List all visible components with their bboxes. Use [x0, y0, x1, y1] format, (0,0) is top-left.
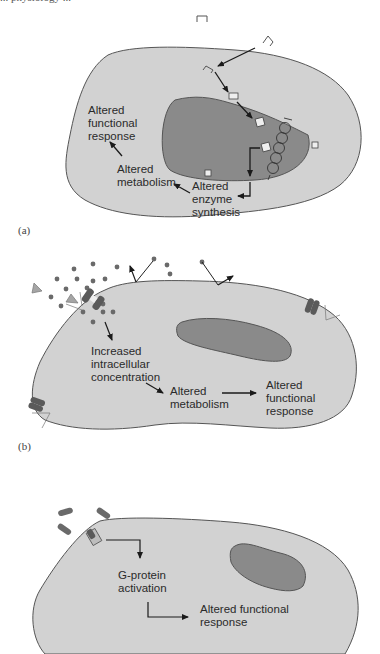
- panel-c: [33, 507, 358, 654]
- receptor-icon: [205, 170, 211, 176]
- hormone-molecule-icon: [263, 36, 273, 46]
- label-increased-intracellular-concentration: Increased intracellular concentration: [91, 345, 160, 384]
- label-altered-metabolism-a: Altered metabolism: [117, 163, 176, 189]
- figure-canvas: [0, 0, 380, 654]
- receptor-icon: [312, 142, 318, 148]
- receptor-complex-icon: [261, 142, 271, 152]
- panel-label-a: (a): [18, 224, 30, 236]
- hormone-molecule-icon: [197, 16, 207, 22]
- ligand-triangle-icon: [66, 294, 78, 303]
- label-g-protein-activation: G-protein activation: [118, 569, 167, 595]
- panel-label-b: (b): [18, 440, 31, 452]
- receptor-icon: [229, 93, 238, 99]
- cell-c-cytoplasm: [33, 518, 358, 654]
- ligand-rod-icon: [57, 507, 73, 517]
- ligand-rod-icon: [96, 507, 112, 521]
- ligand-triangle-icon: [32, 283, 42, 293]
- label-altered-functional-response-b: Altered functional response: [266, 379, 315, 418]
- label-altered-functional-response-a: Altered functional response: [88, 104, 137, 143]
- running-header: ... physiology ...: [0, 0, 71, 3]
- label-altered-functional-response-c: Altered functional response: [200, 603, 289, 629]
- ligand-rod-icon: [57, 523, 73, 537]
- label-altered-metabolism-b: Altered metabolism: [170, 385, 229, 411]
- label-altered-enzyme-synthesis: Altered enzyme synthesis: [192, 180, 240, 219]
- receptor-complex-icon: [255, 117, 265, 127]
